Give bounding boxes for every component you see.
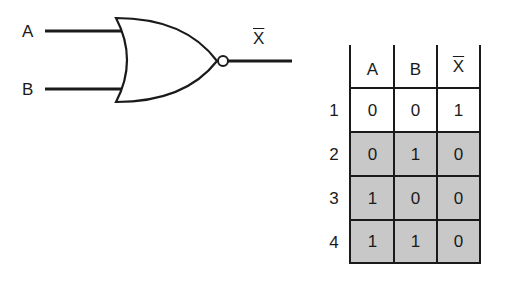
- inversion-bubble: [218, 56, 228, 66]
- cell-r2-b: 1: [394, 133, 437, 176]
- cell-r2-a: 0: [351, 133, 394, 176]
- header-x-bar: X: [437, 45, 480, 88]
- row-label-1: 1: [324, 101, 344, 121]
- cell-r3-b: 0: [394, 177, 437, 220]
- header-b: B: [394, 48, 437, 91]
- row-label-3: 3: [324, 189, 344, 209]
- row-label-4: 4: [324, 233, 344, 253]
- row-label-2: 2: [324, 145, 344, 165]
- nor-gate-symbol: [0, 0, 310, 120]
- cell-r1-b: 0: [394, 89, 437, 132]
- nor-gate-body: [116, 18, 217, 102]
- cell-r4-a: 1: [351, 220, 394, 263]
- cell-r3-x: 0: [437, 177, 480, 220]
- input-a-label: A: [22, 23, 33, 40]
- output-x-bar-label: X: [253, 30, 264, 47]
- header-a: A: [351, 48, 394, 91]
- cell-r1-a: 0: [351, 89, 394, 132]
- input-b-label: B: [22, 81, 33, 98]
- cell-r3-a: 1: [351, 177, 394, 220]
- cell-r4-b: 1: [394, 220, 437, 263]
- cell-r2-x: 0: [437, 133, 480, 176]
- cell-r4-x: 0: [437, 220, 480, 263]
- cell-r1-x: 1: [437, 89, 480, 132]
